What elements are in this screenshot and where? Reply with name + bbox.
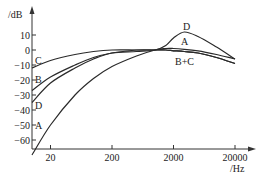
curve-label-bc-right: B+C [175, 56, 194, 67]
y-tick-label: −60 [14, 135, 30, 146]
x-axis-title: /Hz [230, 163, 245, 174]
x-tick-label: 200 [105, 152, 120, 163]
curves [32, 32, 235, 155]
curve-label-d-left: D [35, 100, 42, 111]
curve-a [32, 48, 235, 155]
curve-label-a-right: A [181, 36, 189, 47]
frequency-weighting-chart: /dB /Hz 100−10−20−30−40−50−60 2020020002… [0, 0, 258, 183]
y-ticks: 100−10−20−30−40−50−60 [14, 30, 36, 146]
y-tick-label: −40 [14, 105, 30, 116]
y-tick-label: −20 [14, 75, 30, 86]
y-axis-title: /dB [8, 9, 23, 20]
curve-b [32, 50, 235, 91]
curve-d [32, 32, 235, 103]
y-tick-label: −30 [14, 90, 30, 101]
x-tick-label: 2000 [164, 152, 184, 163]
y-tick-label: 10 [20, 30, 30, 41]
x-tick-label: 20000 [223, 152, 248, 163]
x-axis-arrow-icon [248, 147, 256, 152]
curve-label-d-right: D [183, 21, 190, 32]
y-tick-label: −50 [14, 120, 30, 131]
y-tick-label: 0 [25, 45, 30, 56]
curve-label-b-left: B [35, 74, 42, 85]
y-axis-arrow-icon [30, 6, 35, 14]
curve-c [32, 50, 235, 68]
curve-label-c-left: C [35, 55, 42, 66]
x-tick-label: 20 [46, 152, 56, 163]
x-ticks: 20200200020000 [46, 145, 248, 163]
curve-label-a-left: A [35, 120, 43, 131]
y-tick-label: −10 [14, 60, 30, 71]
axes: /dB /Hz [8, 6, 256, 174]
